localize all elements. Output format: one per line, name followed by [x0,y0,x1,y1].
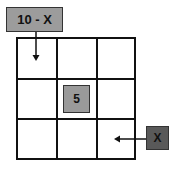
right-input-label: X [153,131,161,145]
center-value-label: 5 [73,92,80,106]
top-input-label: 10 - X [17,12,52,27]
left-arrow-icon [114,136,146,143]
right-input-box: X [146,126,169,150]
top-input-box: 10 - X [6,7,63,32]
center-value-box: 5 [63,85,90,113]
down-arrow-icon [33,32,40,61]
